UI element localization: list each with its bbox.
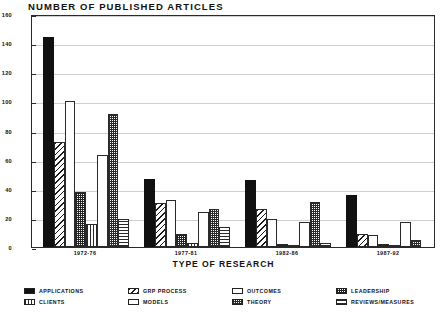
- legend-label: CLIENTS: [39, 299, 65, 305]
- legend-label: APPLICATIONS: [39, 288, 83, 294]
- bar: [166, 200, 177, 247]
- legend-label: THEORY: [247, 299, 272, 305]
- legend-label: LEADERSHIP: [351, 288, 390, 294]
- y-axis-tick: [32, 191, 36, 192]
- bar: [277, 244, 288, 247]
- bar: [155, 203, 166, 247]
- legend-swatch-icon: [128, 299, 139, 305]
- legend-item: LEADERSHIP: [336, 288, 444, 294]
- legend-swatch-icon: [232, 299, 243, 305]
- bar: [310, 202, 321, 247]
- bar: [299, 222, 310, 247]
- bar-group-bars: [245, 16, 331, 247]
- y-axis-tick: [32, 249, 36, 250]
- bar-group: [245, 16, 331, 247]
- bar: [219, 227, 230, 247]
- bar: [320, 243, 331, 247]
- bar: [357, 234, 368, 247]
- bar: [245, 180, 256, 247]
- bar-group-bars: [144, 16, 230, 247]
- y-axis-label: 20: [0, 216, 12, 222]
- legend-swatch-icon: [24, 299, 35, 305]
- y-axis-tick: [32, 45, 36, 46]
- bar: [54, 142, 65, 247]
- legend-item: GRP PROCESS: [128, 288, 232, 294]
- bar: [118, 219, 129, 247]
- bar: [65, 101, 76, 247]
- y-axis-label: 60: [0, 158, 12, 164]
- bar: [378, 244, 389, 247]
- legend-label: GRP PROCESS: [143, 288, 187, 294]
- legend-swatch-icon: [24, 288, 35, 294]
- bar: [176, 234, 187, 247]
- bar: [267, 219, 278, 247]
- bar: [75, 192, 86, 247]
- y-axis-tick: [32, 133, 36, 134]
- bar: [389, 245, 400, 247]
- bar: [43, 37, 54, 247]
- bar-group: [144, 16, 230, 247]
- legend-label: MODELS: [143, 299, 168, 305]
- bar: [97, 155, 108, 247]
- legend-item: THEORY: [232, 299, 336, 305]
- legend-swatch-icon: [336, 288, 347, 294]
- bar-group: [43, 16, 129, 247]
- x-axis-label: 1977-81: [175, 250, 198, 256]
- y-axis-label: 0: [0, 245, 12, 251]
- plot-inner: [32, 16, 434, 247]
- x-axis-label: 1972-76: [74, 250, 97, 256]
- bar: [411, 240, 422, 247]
- legend-item: OUTCOMES: [232, 288, 336, 294]
- legend-swatch-icon: [232, 288, 243, 294]
- y-axis-tick: [32, 103, 36, 104]
- bar: [400, 222, 411, 247]
- chart-page: NUMBER OF PUBLISHED ARTICLES 02040608010…: [0, 0, 447, 317]
- y-axis-label: 80: [0, 129, 12, 135]
- bar: [368, 235, 379, 247]
- bar: [209, 209, 220, 247]
- bar: [86, 224, 97, 247]
- chart-title: NUMBER OF PUBLISHED ARTICLES: [28, 1, 224, 12]
- x-axis-title: TYPE OF RESEARCH: [0, 259, 447, 269]
- chart-legend: APPLICATIONSGRP PROCESSOUTCOMESLEADERSHI…: [24, 285, 436, 307]
- bar: [144, 179, 155, 247]
- legend-swatch-icon: [128, 288, 139, 294]
- plot-area: [31, 15, 435, 248]
- y-axis-tick: [32, 16, 36, 17]
- y-axis-tick: [32, 74, 36, 75]
- y-axis-label: 160: [0, 12, 12, 18]
- x-axis-label: 1987-92: [377, 250, 400, 256]
- legend-item: MODELS: [128, 299, 232, 305]
- bar-group-bars: [346, 16, 432, 247]
- y-axis-label: 40: [0, 187, 12, 193]
- legend-item: APPLICATIONS: [24, 288, 128, 294]
- bar: [198, 212, 209, 247]
- bar: [288, 245, 299, 247]
- bar: [346, 195, 357, 247]
- y-axis-label: 100: [0, 99, 12, 105]
- y-axis-tick: [32, 220, 36, 221]
- legend-item: REVIEWS/MEASURES: [336, 299, 444, 305]
- bar: [108, 114, 119, 247]
- bar: [256, 209, 267, 247]
- bar-group-bars: [43, 16, 129, 247]
- y-axis-label: 140: [0, 41, 12, 47]
- legend-item: CLIENTS: [24, 299, 128, 305]
- legend-label: REVIEWS/MEASURES: [351, 299, 414, 305]
- legend-label: OUTCOMES: [247, 288, 281, 294]
- y-axis-tick: [32, 162, 36, 163]
- x-axis-label: 1982-86: [276, 250, 299, 256]
- y-axis-label: 120: [0, 70, 12, 76]
- bar: [187, 243, 198, 247]
- legend-swatch-icon: [336, 299, 347, 305]
- bar-group: [346, 16, 432, 247]
